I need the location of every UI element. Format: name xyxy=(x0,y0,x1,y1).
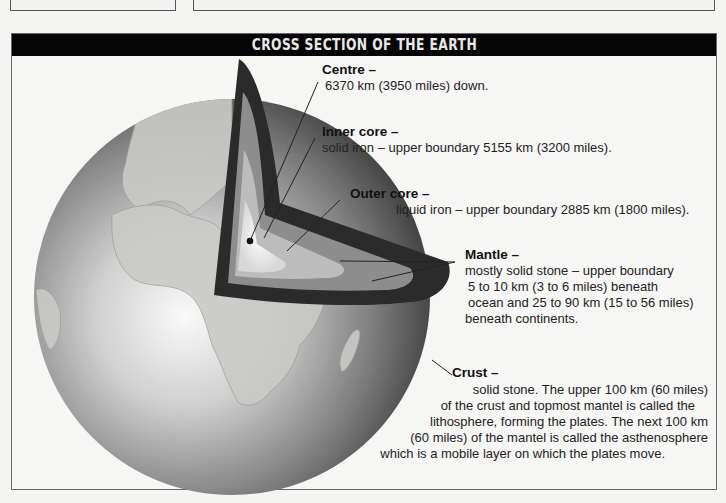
label-mantle-line-1: mostly solid stone – upper boundary xyxy=(465,263,693,279)
label-centre-heading: Centre – xyxy=(322,62,488,78)
label-mantle: Mantle – mostly solid stone – upper boun… xyxy=(465,247,693,327)
label-mantle-line-4: beneath continents. xyxy=(465,311,693,327)
continent-europe xyxy=(122,60,232,215)
label-crust-line-3: lithosphere, forming the plates. The nex… xyxy=(370,414,708,430)
label-crust: Crust – xyxy=(452,365,499,381)
label-crust-line-4: (60 miles) of the mantel is called the a… xyxy=(370,430,708,446)
label-mantle-line-2: 5 to 10 km (3 to 6 miles) beneath xyxy=(465,279,693,295)
label-centre-line-1: 6370 km (3950 miles) down. xyxy=(322,78,488,94)
label-inner-core-line-1: solid iron – upper boundary 5155 km (320… xyxy=(322,140,612,156)
label-centre: Centre – 6370 km (3950 miles) down. xyxy=(322,62,488,94)
label-outer-core-heading: Outer core – xyxy=(350,186,689,202)
label-inner-core-heading: Inner core – xyxy=(322,124,612,140)
label-inner-core: Inner core – solid iron – upper boundary… xyxy=(322,124,612,156)
label-outer-core-line-1: liquid iron – upper boundary 2885 km (18… xyxy=(350,202,689,218)
label-mantle-line-3: ocean and 25 to 90 km (15 to 56 miles) xyxy=(465,295,693,311)
label-outer-core: Outer core – liquid iron – upper boundar… xyxy=(350,186,689,218)
label-crust-line-1: solid stone. The upper 100 km (60 miles) xyxy=(370,382,708,398)
label-crust-body: solid stone. The upper 100 km (60 miles)… xyxy=(370,382,708,462)
label-mantle-heading: Mantle – xyxy=(465,247,693,263)
label-crust-line-5: which is a mobile layer on which the pla… xyxy=(370,446,708,462)
leader-line-crust xyxy=(432,360,452,375)
label-crust-line-2: of the crust and topmost mantel is calle… xyxy=(370,398,708,414)
label-crust-heading: Crust – xyxy=(452,365,499,381)
